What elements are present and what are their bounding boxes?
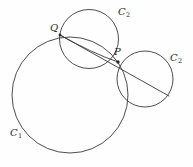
label-c1: C1: [10, 128, 22, 138]
arc-q-to-p: [60, 35, 118, 62]
circle-c2-top: [60, 10, 119, 69]
point-marker-p: [116, 60, 119, 63]
circle-c2-right: [117, 51, 173, 107]
label-point-p: P: [114, 47, 121, 57]
circle-c1: [12, 37, 128, 153]
geometry-figure: C2 C2 C1 Q P: [0, 0, 193, 167]
label-c2-top: C2: [118, 7, 130, 17]
point-marker-q: [59, 34, 62, 37]
label-c2-right: C2: [170, 53, 182, 63]
label-point-q: Q: [50, 23, 58, 33]
geometry-canvas: [0, 0, 193, 167]
